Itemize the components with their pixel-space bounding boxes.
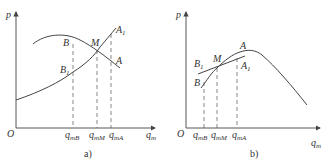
caption-a: a) xyxy=(84,148,92,160)
diagram-canvas: p O qm B B1 M A A1 qmB qmM qmA a) p O qm… xyxy=(0,0,328,166)
y-axis-label: p xyxy=(5,9,11,20)
point-B-label: B xyxy=(63,37,69,48)
point-B1-label: B1 xyxy=(194,58,204,71)
point-A-label: A xyxy=(239,40,247,51)
x-axis-label: qm xyxy=(311,137,321,150)
tick-qmA: qmA xyxy=(232,129,247,142)
straight-line-B1-A1 xyxy=(198,56,245,74)
point-A1-label: A1 xyxy=(240,60,251,73)
point-B-label: B xyxy=(194,77,200,88)
panel-b: p O qm B B1 M A A1 qmB qmM qmA b) xyxy=(175,9,321,160)
point-M-label: M xyxy=(90,37,100,48)
origin-label: O xyxy=(7,128,14,139)
panel-a: p O qm B B1 M A A1 qmB qmM qmA a) xyxy=(5,9,156,160)
point-M-label: M xyxy=(212,53,222,64)
x-axis-label: qm xyxy=(146,129,156,142)
point-A-label: A xyxy=(115,55,123,66)
tick-qmB: qmB xyxy=(65,129,80,142)
point-B1-label: B1 xyxy=(60,64,70,77)
tick-qmB: qmB xyxy=(193,129,208,142)
tick-qmM: qmM xyxy=(89,129,106,142)
point-A1-label: A1 xyxy=(115,24,126,37)
y-axis-label: p xyxy=(175,9,181,20)
origin-label: O xyxy=(177,128,184,139)
caption-b: b) xyxy=(250,148,258,160)
tick-qmA: qmA xyxy=(109,129,124,142)
tick-qmM: qmM xyxy=(211,129,228,142)
hump-curve xyxy=(33,35,120,68)
